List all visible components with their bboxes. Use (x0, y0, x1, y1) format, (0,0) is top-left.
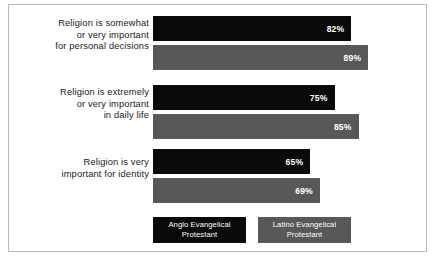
bars-container: 65% 69% (153, 149, 426, 203)
bar-value-label: 89% (344, 53, 362, 63)
plot-area: Religion is somewhat or very important f… (9, 5, 426, 251)
bar-anglo[interactable]: 65% (153, 149, 310, 174)
category-label: Religion is very important for identity (13, 157, 149, 180)
bars-container: 75% 85% (153, 85, 426, 139)
bars-container: 82% 89% (153, 16, 426, 70)
chart-frame: Religion is somewhat or very important f… (8, 4, 427, 252)
category-label-line: in daily life (13, 110, 149, 122)
bar-value-label: 65% (285, 157, 303, 167)
category-label-line: or very important (13, 30, 149, 42)
legend-item-anglo[interactable]: Anglo Evangelical Protestant (153, 217, 246, 243)
bar-anglo[interactable]: 82% (153, 16, 351, 41)
legend-item-latino[interactable]: Latino Evangelical Protestant (258, 217, 351, 243)
bar-row-latino: 69% (153, 178, 320, 203)
bar-row-anglo: 82% (153, 16, 351, 41)
bar-row-latino: 89% (153, 45, 368, 70)
category-label-line: or very important (13, 99, 149, 111)
bar-row-anglo: 75% (153, 85, 335, 110)
bar-group: Religion is extremely or very important … (9, 85, 426, 139)
category-label: Religion is extremely or very important … (13, 87, 149, 122)
legend-label-line: Anglo Evangelical (155, 220, 244, 229)
category-label-line: important for identity (13, 169, 149, 181)
chart-legend: Anglo Evangelical Protestant Latino Evan… (153, 217, 351, 243)
category-label-line: Religion is very (13, 157, 149, 169)
bar-row-anglo: 65% (153, 149, 310, 174)
bar-latino[interactable]: 89% (153, 45, 368, 70)
legend-label-line: Latino Evangelical (260, 220, 349, 229)
category-label-line: Religion is extremely (13, 87, 149, 99)
category-label-line: Religion is somewhat (13, 18, 149, 30)
bar-value-label: 85% (334, 122, 352, 132)
bar-value-label: 69% (295, 186, 313, 196)
bar-value-label: 82% (327, 24, 345, 34)
bar-value-label: 75% (310, 93, 328, 103)
legend-label-line: Protestant (260, 230, 349, 239)
bar-anglo[interactable]: 75% (153, 85, 335, 110)
bar-row-latino: 85% (153, 114, 359, 139)
bar-latino[interactable]: 85% (153, 114, 359, 139)
legend-label-line: Protestant (155, 230, 244, 239)
bar-latino[interactable]: 69% (153, 178, 320, 203)
category-label-line: for personal decisions (13, 41, 149, 53)
bar-group: Religion is somewhat or very important f… (9, 16, 426, 70)
category-label: Religion is somewhat or very important f… (13, 18, 149, 53)
bar-group: Religion is very important for identity … (9, 149, 426, 203)
